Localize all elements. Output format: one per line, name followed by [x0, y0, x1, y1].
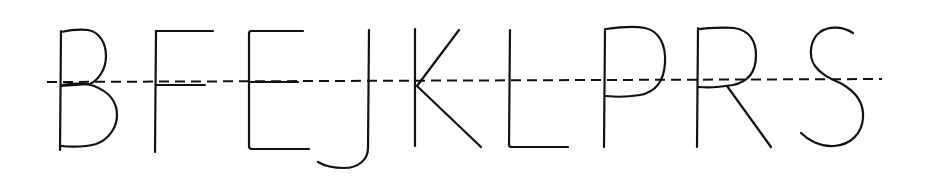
dashed-midline	[47, 79, 882, 82]
letter-f: F	[155, 31, 213, 152]
letter-k: K	[415, 29, 481, 147]
letter-b: B	[60, 30, 117, 150]
letter-s: S	[801, 28, 863, 147]
letter-diagram: Letters with straight and curved strokes…	[0, 0, 930, 188]
letter-e: E	[249, 31, 309, 149]
letter-drawing: B F E J K L	[0, 0, 930, 188]
letter-j: J	[318, 30, 369, 168]
letter-p: P	[604, 27, 665, 147]
letter-r: R	[697, 28, 771, 147]
letter-l: L	[509, 30, 568, 147]
